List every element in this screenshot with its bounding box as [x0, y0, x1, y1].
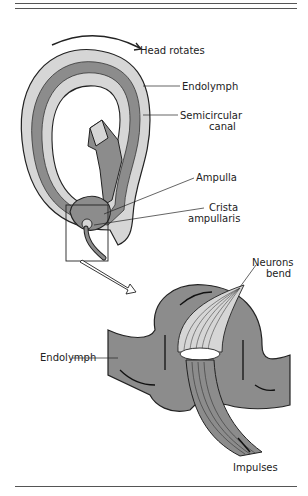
- label-endolymph-top: Endolymph: [182, 81, 238, 92]
- label-impulses: Impulses: [233, 462, 278, 473]
- semicircular-canal-diagram: [0, 0, 308, 496]
- label-ampulla: Ampulla: [196, 172, 237, 183]
- label-endolymph-bottom: Endolymph: [40, 352, 96, 363]
- semicircular-canal: [21, 50, 150, 258]
- label-bend: bend: [266, 268, 291, 279]
- label-canal: canal: [209, 121, 236, 132]
- label-crista: Crista: [209, 202, 238, 213]
- label-neurons: Neurons: [252, 257, 294, 268]
- rotation-arrow-icon: [52, 36, 141, 50]
- enlarged-ampulla: [108, 285, 290, 456]
- label-semicircular: Semicircular: [180, 110, 242, 121]
- hollow-arrow-icon: [80, 260, 136, 294]
- label-head-rotates: Head rotates: [140, 45, 205, 56]
- label-ampullaris: ampullaris: [188, 213, 240, 224]
